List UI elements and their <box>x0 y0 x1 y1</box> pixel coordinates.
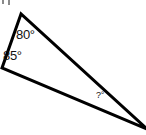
angle-label-right-unknown: ?° <box>96 91 104 100</box>
angle-label-left: 85° <box>3 49 22 62</box>
crop-mark-glyph-two <box>8 0 10 5</box>
triangle-drawing <box>0 0 146 135</box>
crop-mark-glyph-one <box>2 0 4 4</box>
angle-label-top: 80° <box>16 28 35 41</box>
geometry-figure: 80° 85° ?° <box>0 0 146 135</box>
cropped-label-marks <box>0 0 30 8</box>
